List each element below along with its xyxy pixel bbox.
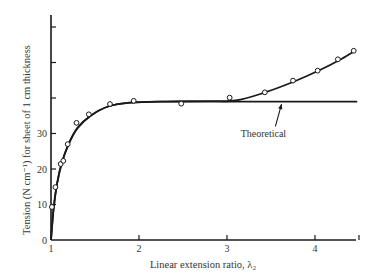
x-tick-label: 1 <box>49 243 54 254</box>
y-tick-label: 30 <box>37 128 47 139</box>
open-circle-marker <box>49 205 54 210</box>
theoretical-curve <box>51 101 357 240</box>
open-circle-marker <box>74 120 79 125</box>
x-tick-label: 4 <box>313 243 318 254</box>
x-axis-title: Linear extension ratio, λ₂ <box>150 259 256 270</box>
open-circle-marker <box>315 68 320 73</box>
tension-vs-extension-chart: 12340102030 Theoretical Linear extension… <box>0 0 376 280</box>
open-circle-marker <box>108 102 113 107</box>
open-circle-marker <box>61 158 66 163</box>
open-circle-marker <box>227 95 232 100</box>
y-axis-title: Tension (N cm⁻¹) for sheet of 1 cm thick… <box>21 45 33 235</box>
annotations: Theoretical <box>241 104 287 139</box>
experimental-curve <box>51 50 355 240</box>
data-markers <box>49 48 356 209</box>
y-tick-label: 0 <box>42 235 47 246</box>
open-circle-marker <box>65 142 70 147</box>
y-tick-label: 10 <box>37 199 47 210</box>
annotation-label-theoretical: Theoretical <box>241 128 287 139</box>
open-circle-marker <box>86 112 91 117</box>
open-circle-marker <box>335 57 340 62</box>
open-circle-marker <box>131 98 136 103</box>
x-tick-label: 3 <box>225 243 230 254</box>
open-circle-marker <box>53 185 58 190</box>
y-tick-label: 20 <box>37 164 47 175</box>
axes: 12340102030 <box>37 15 359 254</box>
open-circle-marker <box>291 78 296 83</box>
open-circle-marker <box>179 101 184 106</box>
x-tick-label: 2 <box>137 243 142 254</box>
open-circle-marker <box>351 48 356 53</box>
curves <box>51 50 357 240</box>
open-circle-marker <box>262 90 267 95</box>
